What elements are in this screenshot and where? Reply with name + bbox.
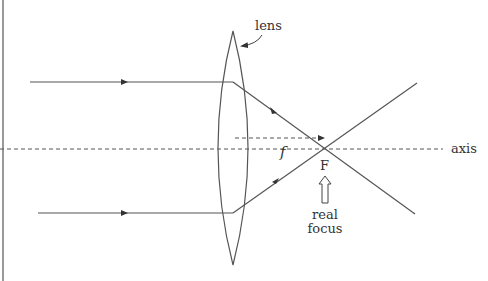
top-refracted-arrow-icon: [270, 107, 277, 114]
real-focus-label-line1: real: [312, 207, 338, 222]
axis-label: axis: [451, 141, 477, 156]
focus-point-label: F: [320, 158, 329, 173]
lens-diagram: axis lens f F real focus: [0, 0, 488, 281]
top-ray-arrow-icon: [121, 79, 128, 85]
real-focus-label-line2: focus: [308, 221, 343, 236]
lens-label: lens: [255, 18, 282, 33]
lens-shape: [218, 31, 248, 265]
hollow-up-arrow-icon: [319, 176, 331, 203]
focal-length-label: f: [279, 143, 288, 161]
focal-length-arrowhead-icon: [318, 135, 325, 141]
bottom-ray-arrow-icon: [121, 210, 128, 216]
lens-pointer-arrow: [242, 35, 262, 46]
